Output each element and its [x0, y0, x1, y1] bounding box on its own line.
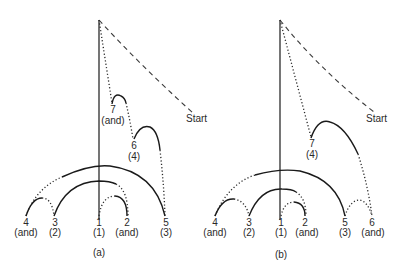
big-arc-dotted-b	[215, 175, 255, 216]
node-role-3-a: (2)	[49, 228, 61, 238]
arc-node7-a	[112, 95, 126, 104]
arc-node6-a	[134, 127, 160, 151]
small-arc-1-2-solid-b	[294, 202, 305, 216]
node-role-4-b: (and)	[203, 228, 226, 238]
small-arc-4-3-solid-a	[26, 198, 42, 216]
caption-b: (b)	[275, 249, 287, 260]
node-role-7-b: (4)	[306, 150, 318, 160]
start-dashed-path-b	[280, 20, 374, 112]
node-role-6-b: (and)	[361, 228, 384, 238]
start-label-a: Start	[186, 113, 207, 124]
node-num-6-a: 6	[131, 141, 137, 151]
node-num-7-a: 7	[110, 105, 116, 115]
small-arc-5-6-dotted-b	[345, 200, 372, 216]
node-role-2-b: (and)	[295, 228, 318, 238]
dotted-7-to-6-a	[126, 103, 133, 139]
small-arc-1-2-dotted-a	[99, 196, 115, 216]
node-role-4-a: (and)	[14, 228, 37, 238]
caption-a: (a)	[93, 247, 105, 258]
node-role-5-b: (3)	[339, 228, 351, 238]
node-role-6-a: (4)	[128, 152, 140, 162]
panel-b	[215, 20, 374, 220]
big-arc-solid-a	[62, 166, 165, 216]
node-num-7-b: 7	[309, 139, 315, 149]
small-arc-4-3-dotted-a	[42, 198, 54, 216]
node-role-2-a: (and)	[115, 228, 138, 238]
dotted-7-to-6-b	[358, 154, 372, 216]
middle-arc-solid-b	[249, 189, 296, 216]
node-role-5-a: (3)	[160, 228, 172, 238]
dotted-path-to-node7-a	[99, 20, 112, 103]
dotted-path-to-node7-b	[280, 20, 311, 137]
node-role-1-b: (1)	[275, 228, 287, 238]
small-arc-1-2-solid-a	[115, 196, 127, 216]
small-arc-4-3-dotted-b	[234, 199, 249, 216]
big-arc-solid-b	[255, 170, 345, 216]
node-role-3-b: (2)	[243, 228, 255, 238]
small-arc-1-2-dotted-b	[281, 202, 294, 216]
middle-arc-solid-a	[54, 181, 116, 216]
node-role-1-a: (1)	[93, 228, 105, 238]
small-arc-4-3-solid-b	[215, 199, 234, 216]
start-label-b: Start	[366, 113, 387, 124]
node-role-7-a: (and)	[101, 116, 124, 126]
